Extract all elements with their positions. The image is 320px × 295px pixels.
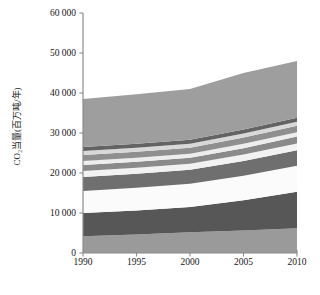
stacked-area-chart: CO₂当量(百万吨/年) 010 00020 00030 00040 00050…: [0, 0, 320, 295]
chart-canvas: [0, 0, 320, 295]
x-tick-label-1990: 1990: [74, 257, 93, 267]
x-tick-label-2005: 2005: [234, 257, 253, 267]
area-layers: [83, 61, 297, 253]
x-tick-label-1995: 1995: [127, 257, 146, 267]
x-tick-label-2000: 2000: [181, 257, 200, 267]
x-tick-label-2010: 2010: [288, 257, 307, 267]
